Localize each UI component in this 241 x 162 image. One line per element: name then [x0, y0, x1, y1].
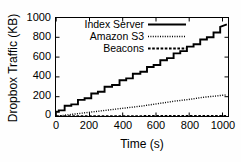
legend-label-index-server: Index Server — [84, 18, 144, 30]
dropbox-traffic-line-chart: Dropbox Traffic (KB) 1000 800 600 400 20… — [0, 0, 241, 162]
legend-label-amazon-s3: Amazon S3 — [90, 30, 144, 42]
chart-container: Dropbox Traffic (KB) 1000 800 600 400 20… — [0, 0, 241, 162]
y-tick-label-1000: 1000 — [27, 11, 51, 23]
y-axis-title: Dropbox Traffic (KB) — [6, 14, 20, 122]
x-axis-title: Time (s) — [120, 137, 164, 151]
x-tick-label-1000: 1000 — [211, 119, 235, 131]
y-tick-label-600: 600 — [33, 50, 51, 62]
x-tick-label-600: 600 — [147, 119, 165, 131]
legend-label-beacons: Beacons — [103, 42, 144, 54]
x-tick-label-800: 800 — [181, 119, 199, 131]
y-tick-label-0: 0 — [45, 108, 51, 120]
y-tick-label-400: 400 — [33, 69, 51, 81]
x-tick-label-400: 400 — [114, 119, 132, 131]
y-tick-label-800: 800 — [33, 30, 51, 42]
x-tick-label-0: 0 — [53, 119, 59, 131]
x-tick-label-200: 200 — [80, 119, 98, 131]
y-tick-label-200: 200 — [33, 89, 51, 101]
